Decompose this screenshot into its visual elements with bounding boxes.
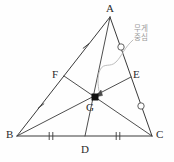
callout-text-line-1: 무게 (134, 24, 148, 33)
circle-mark-AE (118, 44, 124, 50)
centroid-callout-leader (95, 40, 133, 97)
geometry-figure: A B C D E F G 무게 중심 (0, 0, 174, 162)
callout-text-line-2: 중심 (134, 33, 148, 42)
centroid-marker (92, 94, 99, 101)
median-AD (85, 17, 110, 136)
vertex-label-C: C (156, 129, 163, 140)
centroid-callout-text: 무게 중심 (134, 24, 148, 43)
triangle-sides (17, 17, 152, 136)
tick-mark-FB (38, 104, 44, 109)
circle-mark-EC (138, 103, 144, 109)
centroid-label-G: G (86, 102, 94, 113)
midpoint-label-D: D (81, 144, 89, 155)
triangle-medians (17, 17, 152, 136)
vertex-label-A: A (106, 3, 114, 14)
side-AB (17, 17, 110, 136)
median-BE (17, 77, 131, 136)
vertex-label-B: B (6, 129, 13, 140)
midpoint-label-E: E (133, 69, 140, 80)
congruence-ticks (38, 44, 120, 140)
midpoint-label-F: F (52, 69, 58, 80)
